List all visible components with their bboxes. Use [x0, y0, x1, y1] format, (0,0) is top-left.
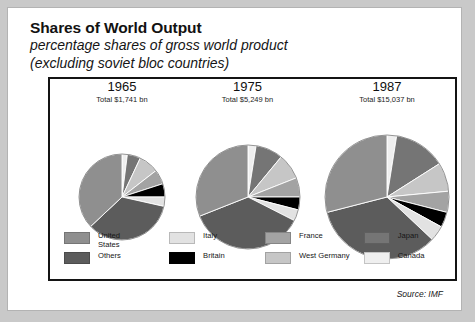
page-title: Shares of World Output: [30, 18, 450, 37]
pie-panel-1975: 1975Total $5,249 bn: [180, 79, 315, 227]
legend-swatch-west-germany: [265, 252, 291, 264]
title-block: Shares of World Output percentage shares…: [30, 18, 450, 72]
legend-item-france[interactable]: France: [265, 231, 364, 244]
legend-swatch-britain: [169, 252, 195, 264]
subtitle-line-1: percentage shares of gross world product: [30, 37, 450, 55]
legend-label-united-states: United States: [98, 231, 120, 249]
panel-header: 1987Total $15,037 bn: [312, 79, 462, 105]
legend-item-west-germany[interactable]: West Germany: [265, 251, 364, 264]
figure-card: Shares of World Output percentage shares…: [7, 7, 462, 311]
legend-swatch-canada: [364, 252, 390, 264]
subtitle-line-2: (excluding soviet bloc countries): [30, 55, 450, 73]
legend-label-japan: Japan: [398, 231, 419, 240]
panel-year-label: 1975: [180, 79, 315, 94]
pie-panel-1965: 1965Total $1,741 bn: [62, 79, 182, 227]
legend-label-britain: Britain: [203, 251, 225, 260]
legend-swatch-italy: [169, 232, 195, 244]
legend-label-france: France: [299, 231, 323, 240]
panel-total-label: Total $1,741 bn: [62, 94, 182, 105]
legend-swatch-others: [64, 252, 90, 264]
panel-year-label: 1965: [62, 79, 182, 94]
panel-total-label: Total $5,249 bn: [180, 94, 315, 105]
legend-label-canada: Canada: [398, 251, 425, 260]
pie-chart-1965: [77, 152, 167, 242]
legend-label-west-germany: West Germany: [299, 251, 350, 260]
pie-panels: 1965Total $1,741 bn1975Total $5,249 bn19…: [50, 79, 455, 227]
legend-item-united-states[interactable]: United States: [64, 231, 169, 249]
legend-swatch-japan: [364, 232, 390, 244]
legend-item-japan[interactable]: Japan: [364, 231, 446, 244]
legend-item-canada[interactable]: Canada: [364, 251, 446, 264]
chart-legend: United StatesItalyFranceJapanOthersBrita…: [64, 231, 446, 271]
legend-row: OthersBritainWest GermanyCanada: [64, 251, 446, 271]
legend-label-others: Others: [98, 251, 121, 260]
legend-swatch-france: [265, 232, 291, 244]
panel-year-label: 1987: [312, 79, 462, 94]
legend-label-italy: Italy: [203, 231, 217, 240]
legend-item-others[interactable]: Others: [64, 251, 169, 264]
legend-item-britain[interactable]: Britain: [169, 251, 265, 264]
figure-root: Shares of World Output percentage shares…: [0, 0, 475, 322]
chart-box: 1965Total $1,741 bn1975Total $5,249 bn19…: [48, 77, 457, 281]
source-note: Source: IMF: [397, 289, 443, 299]
panel-total-label: Total $15,037 bn: [312, 94, 462, 105]
legend-row: United StatesItalyFranceJapan: [64, 231, 446, 251]
legend-item-italy[interactable]: Italy: [169, 231, 265, 244]
pie-panel-1987: 1987Total $15,037 bn: [312, 79, 462, 227]
panel-header: 1975Total $5,249 bn: [180, 79, 315, 105]
legend-swatch-united-states: [64, 232, 90, 244]
panel-header: 1965Total $1,741 bn: [62, 79, 182, 105]
